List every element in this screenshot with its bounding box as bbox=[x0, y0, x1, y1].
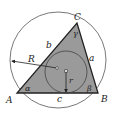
vertex-b-label: B bbox=[100, 94, 108, 104]
angle-beta-label: β bbox=[86, 84, 92, 93]
vertex-c-label: C bbox=[74, 12, 81, 22]
vertex-a-label: A bbox=[5, 95, 13, 105]
side-b-label: b bbox=[46, 40, 52, 50]
angle-gamma-label: γ bbox=[73, 29, 78, 38]
side-c-label: c bbox=[57, 94, 62, 104]
angle-alpha-label: α bbox=[25, 84, 31, 93]
incenter-point bbox=[65, 70, 67, 72]
circumcenter-point bbox=[56, 67, 59, 70]
triangle-circles-diagram: A B C a b c α β γ R r bbox=[0, 0, 118, 120]
circumradius-label: R bbox=[27, 54, 35, 64]
side-a-label: a bbox=[89, 53, 94, 63]
